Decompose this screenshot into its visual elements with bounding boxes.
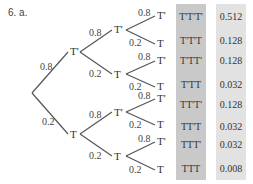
outcome-cell: T'TT' <box>176 56 206 66</box>
node-level2-2: T <box>114 69 121 80</box>
probability-cell: 0.032 <box>216 140 246 150</box>
edge-label-l2-2-upper: 0.8 <box>89 110 102 120</box>
probability-cell: 0.128 <box>216 100 246 110</box>
outcome-cell: T'TT <box>176 80 206 90</box>
probability-cell: 0.032 <box>216 80 246 90</box>
leaf-node-6: T <box>157 119 164 130</box>
probability-cell: 0.032 <box>216 122 246 132</box>
leaf-node-7: T' <box>157 136 166 147</box>
probability-cell: 0.128 <box>216 56 246 66</box>
leaf-node-2: T <box>157 38 164 49</box>
edge-label-l3-2: 0.2 <box>129 38 142 48</box>
probability-cell: 0.128 <box>216 36 246 46</box>
edge-label-l2-2-lower: 0.2 <box>89 151 102 161</box>
leaf-node-8: T <box>157 164 164 175</box>
edge-label-l3-3: 0.8 <box>138 52 151 62</box>
probability-cell: 0.512 <box>216 12 246 22</box>
probabilities-column: 0.512 0.128 0.128 0.032 0.128 0.032 0.03… <box>216 4 246 180</box>
leaf-node-3: T' <box>157 55 166 66</box>
outcome-cell: T'T'T <box>176 36 206 46</box>
edge-label-l3-5: 0.8 <box>138 91 151 101</box>
edge-label-l2-1-lower: 0.2 <box>89 69 102 79</box>
edge-label-l3-6: 0.2 <box>129 120 142 130</box>
node-level2-1: T' <box>114 24 123 35</box>
probability-cell: 0.008 <box>216 164 246 174</box>
node-level1-lower: T <box>70 129 77 140</box>
node-level2-4: T <box>114 151 121 162</box>
edge-label-l3-7: 0.8 <box>138 134 151 144</box>
node-level1-upper: T' <box>70 46 79 57</box>
edge-label-l3-8: 0.2 <box>129 165 142 175</box>
leaf-node-1: T' <box>157 10 166 21</box>
outcome-cell: TT'T <box>176 122 206 132</box>
edge-label-l3-1: 0.8 <box>138 8 151 18</box>
node-level2-3: T' <box>114 107 123 118</box>
outcomes-column: T'T'T' T'T'T T'TT' T'TT TT'T' TT'T TTT' … <box>176 4 206 180</box>
outcome-cell: TTT' <box>176 140 206 150</box>
leaf-node-5: T' <box>157 93 166 104</box>
outcome-cell: TT'T' <box>176 100 206 110</box>
edge-label-root-lower: 0.2 <box>42 117 55 127</box>
edge-label-root-upper: 0.8 <box>40 62 53 72</box>
edge-label-l2-1-upper: 0.8 <box>89 28 102 38</box>
outcome-cell: T'T'T' <box>176 12 206 22</box>
leaf-node-4: T <box>157 81 164 92</box>
outcome-cell: TTT <box>176 164 206 174</box>
